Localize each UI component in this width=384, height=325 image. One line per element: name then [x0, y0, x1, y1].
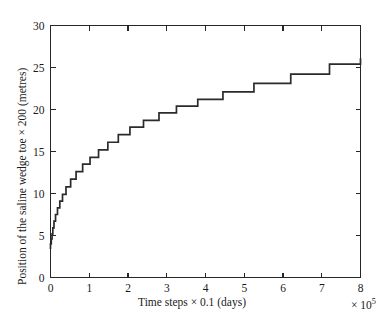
y-axis-title: Position of the saline wedge toe × 200 (…: [16, 68, 28, 285]
y-tick-label: 25: [33, 62, 45, 74]
x-tick-label: 8: [358, 282, 364, 294]
x-tick-label: 1: [86, 282, 92, 294]
y-tick-label: 20: [33, 104, 45, 116]
x-axis-title: Time steps × 0.1 (days): [0, 296, 384, 308]
x-tick-label: 7: [319, 282, 325, 294]
series-line: [51, 58, 361, 249]
chart-plot-area: 012345678051015202530: [0, 0, 384, 325]
x-tick-label: 2: [125, 282, 131, 294]
chart-figure: 012345678051015202530 Position of the sa…: [0, 0, 384, 325]
y-tick-label: 30: [33, 20, 45, 32]
y-tick-label: 0: [39, 272, 45, 284]
x-axis-multiplier-prefix: × 10: [351, 299, 372, 311]
y-tick-label: 15: [33, 146, 45, 158]
x-tick-label: 5: [241, 282, 247, 294]
y-tick-label: 10: [33, 188, 45, 200]
y-tick-label: 5: [39, 230, 45, 242]
plot-frame: [51, 26, 361, 278]
x-tick-label: 4: [203, 282, 209, 294]
x-axis-multiplier-exponent: 5: [372, 297, 376, 306]
x-tick-label: 6: [280, 282, 286, 294]
x-axis-multiplier: × 105: [351, 299, 376, 311]
x-tick-label: 3: [164, 282, 170, 294]
x-tick-label: 0: [48, 282, 54, 294]
